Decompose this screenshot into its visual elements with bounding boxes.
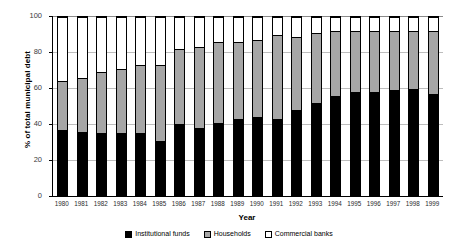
bar-segment-commercial-banks-1985 xyxy=(156,17,165,65)
legend-label: Households xyxy=(214,230,251,238)
bar-segment-institutional-funds-1996 xyxy=(370,92,379,196)
bar-segment-households-1991 xyxy=(273,35,282,119)
bar-segment-institutional-funds-1995 xyxy=(351,92,360,196)
bar-column-1980 xyxy=(53,16,73,196)
legend-label: Commercial banks xyxy=(275,230,333,238)
x-tick-label-1992: 1992 xyxy=(286,200,306,212)
stacked-bar-1985 xyxy=(155,16,166,196)
x-tick-label-1988: 1988 xyxy=(208,200,228,212)
x-tick-label-1987: 1987 xyxy=(189,200,209,212)
y-tick-label-80: 80 xyxy=(34,48,42,56)
bar-segment-households-1981 xyxy=(78,78,87,132)
bar-segment-commercial-banks-1984 xyxy=(136,17,145,65)
bar-column-1992 xyxy=(287,16,307,196)
stacked-bar-1981 xyxy=(77,16,88,196)
x-tick-label-1994: 1994 xyxy=(325,200,345,212)
bar-segment-institutional-funds-1983 xyxy=(117,133,126,196)
bar-segment-households-1993 xyxy=(312,33,321,103)
x-tick-label-1997: 1997 xyxy=(384,200,404,212)
bar-column-1986 xyxy=(170,16,190,196)
x-tick-label-1989: 1989 xyxy=(228,200,248,212)
x-tick-label-1982: 1982 xyxy=(91,200,111,212)
bar-column-1988 xyxy=(209,16,229,196)
bar-segment-institutional-funds-1999 xyxy=(429,94,438,196)
bar-segment-institutional-funds-1989 xyxy=(234,119,243,196)
x-axis-title: Year xyxy=(52,213,442,222)
bar-segment-institutional-funds-1993 xyxy=(312,103,321,196)
y-tick-label-40: 40 xyxy=(34,120,42,128)
black-swatch-icon xyxy=(125,231,132,238)
white-swatch-icon xyxy=(265,231,272,238)
bar-segment-households-1992 xyxy=(292,37,301,110)
gray-swatch-icon xyxy=(204,231,211,238)
bar-segment-commercial-banks-1997 xyxy=(390,17,399,31)
y-tick-label-60: 60 xyxy=(34,84,42,92)
bar-segment-commercial-banks-1982 xyxy=(97,17,106,73)
bar-segment-commercial-banks-1988 xyxy=(214,17,223,42)
legend-item-institutional-funds: Institutional funds xyxy=(125,230,189,238)
bar-segment-households-1988 xyxy=(214,42,223,123)
bar-column-1985 xyxy=(151,16,171,196)
legend-item-commercial-banks: Commercial banks xyxy=(265,230,333,238)
bar-segment-commercial-banks-1990 xyxy=(253,17,262,40)
bar-segment-institutional-funds-1981 xyxy=(78,132,87,196)
stacked-bar-1989 xyxy=(233,16,244,196)
bar-segment-households-1985 xyxy=(156,65,165,140)
bar-segment-commercial-banks-1992 xyxy=(292,17,301,37)
bar-segment-institutional-funds-1988 xyxy=(214,123,223,196)
bar-segment-commercial-banks-1993 xyxy=(312,17,321,33)
bar-column-1999 xyxy=(424,16,444,196)
bar-segment-commercial-banks-1994 xyxy=(331,17,340,31)
y-axis-tick-labels: 020406080100 xyxy=(0,0,48,212)
bar-column-1987 xyxy=(190,16,210,196)
bar-segment-households-1990 xyxy=(253,40,262,117)
y-tick-label-100: 100 xyxy=(29,12,42,20)
bar-segment-institutional-funds-1997 xyxy=(390,90,399,196)
x-tick-label-1980: 1980 xyxy=(52,200,72,212)
stacked-bar-1986 xyxy=(174,16,185,196)
bar-column-1981 xyxy=(73,16,93,196)
stacked-bar-1990 xyxy=(252,16,263,196)
bar-segment-institutional-funds-1987 xyxy=(195,128,204,196)
bar-segment-households-1984 xyxy=(136,65,145,133)
stacked-bar-1984 xyxy=(135,16,146,196)
stacked-bar-1987 xyxy=(194,16,205,196)
bar-segment-households-1982 xyxy=(97,72,106,133)
bar-segment-households-1996 xyxy=(370,31,379,92)
bar-segment-commercial-banks-1991 xyxy=(273,17,282,35)
bar-column-1996 xyxy=(365,16,385,196)
legend-label: Institutional funds xyxy=(135,230,189,238)
x-tick-label-1990: 1990 xyxy=(247,200,267,212)
x-tick-label-1983: 1983 xyxy=(111,200,131,212)
x-tick-label-1985: 1985 xyxy=(150,200,170,212)
stacked-bar-1997 xyxy=(389,16,400,196)
bar-segment-institutional-funds-1980 xyxy=(58,130,67,196)
bar-column-1997 xyxy=(385,16,405,196)
x-tick-label-1984: 1984 xyxy=(130,200,150,212)
bar-column-1990 xyxy=(248,16,268,196)
stacked-bar-1993 xyxy=(311,16,322,196)
stacked-bar-1982 xyxy=(96,16,107,196)
legend-item-households: Households xyxy=(204,230,251,238)
stacked-bar-1995 xyxy=(350,16,361,196)
bar-segment-commercial-banks-1995 xyxy=(351,17,360,31)
bar-segment-institutional-funds-1986 xyxy=(175,124,184,196)
bar-segment-institutional-funds-1985 xyxy=(156,141,165,196)
bar-column-1982 xyxy=(92,16,112,196)
stacked-bar-1980 xyxy=(57,16,68,196)
stacked-bar-chart: % of total municipal debt 020406080100 1… xyxy=(0,0,458,251)
bar-column-1994 xyxy=(326,16,346,196)
x-tick-label-1996: 1996 xyxy=(364,200,384,212)
bar-column-1991 xyxy=(268,16,288,196)
x-tick-label-1999: 1999 xyxy=(423,200,443,212)
bar-segment-commercial-banks-1980 xyxy=(58,17,67,81)
bar-segment-households-1995 xyxy=(351,31,360,92)
bar-segment-households-1983 xyxy=(117,69,126,133)
bar-segment-households-1999 xyxy=(429,31,438,94)
stacked-bar-1994 xyxy=(330,16,341,196)
bar-series-group xyxy=(53,16,443,196)
stacked-bar-1991 xyxy=(272,16,283,196)
bar-segment-households-1986 xyxy=(175,49,184,124)
bar-segment-households-1997 xyxy=(390,31,399,90)
bar-segment-households-1980 xyxy=(58,81,67,129)
